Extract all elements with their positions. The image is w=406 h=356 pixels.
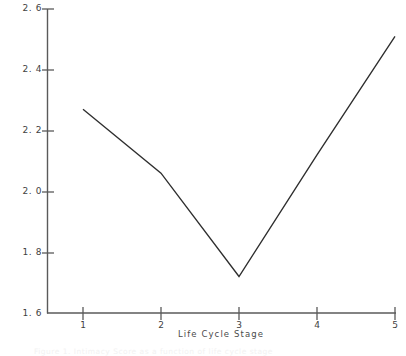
figure-container: Intimacy Score 2. 6 2. 4 2. 2 2. 0 1. 8 … [0,0,406,356]
figure-caption: Figure 1. Intimacy Score as a function o… [34,347,374,356]
x-axis-title: Life Cycle Stage [47,329,395,339]
x-axis-tick-labels: 1 2 3 4 5 [0,0,406,356]
